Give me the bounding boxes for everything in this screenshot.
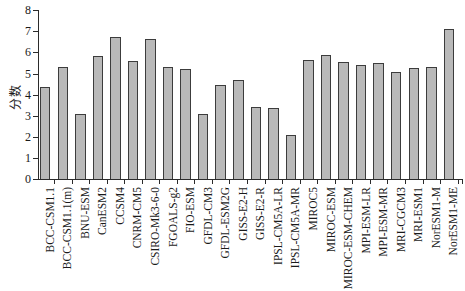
x-axis-tick — [177, 180, 178, 184]
y-axis-tick — [33, 158, 38, 159]
bar-IPSL-CM5A-MR — [286, 135, 297, 179]
x-category-label: GISS-E2-H — [238, 187, 249, 241]
x-category-label: IPSL-CM5A-MR — [290, 187, 301, 268]
x-category-label: CanESM2 — [97, 187, 108, 235]
y-axis-tick — [33, 179, 38, 180]
x-category-label: MIROC5 — [308, 187, 319, 230]
x-category-label: NorESM1-ME — [448, 187, 459, 255]
bar-BCC-CSM1.1(m) — [58, 67, 69, 179]
bar-MIROC5 — [303, 60, 314, 179]
x-axis-tick — [107, 180, 108, 184]
x-axis-tick — [89, 180, 90, 184]
bar-MRI-CGCM3 — [391, 72, 402, 179]
x-category-label: NorESM1-M — [431, 187, 442, 248]
y-axis-tick-label: 1 — [13, 153, 31, 163]
bar-CNRM-CM5 — [128, 61, 139, 179]
x-axis-end-tick — [462, 180, 463, 184]
x-category-label: MIROC-ESM-CHEM — [343, 187, 354, 289]
x-axis-tick — [265, 180, 266, 184]
bar-NorESM1-M — [426, 67, 437, 179]
x-category-label: MPI-ESM-MR — [378, 187, 389, 257]
bar-MIROC-ESM — [321, 55, 332, 179]
x-category-label: MRI-ESM1 — [413, 187, 424, 242]
x-axis-tick — [142, 180, 143, 184]
x-category-label: BCC-CSM1.1 — [45, 187, 56, 253]
x-category-label: MIROC-ESM — [326, 187, 337, 252]
y-axis-tick-label: 5 — [13, 69, 31, 79]
y-axis-tick-label: 7 — [13, 26, 31, 36]
y-axis-line — [38, 10, 39, 180]
x-axis-tick — [440, 180, 441, 184]
x-axis-tick — [124, 180, 125, 184]
x-axis-tick — [282, 180, 283, 184]
bar-FGOALS-g2 — [163, 67, 174, 179]
x-category-label: BNU-ESM — [80, 187, 91, 239]
bar-GFDL-CM3 — [198, 114, 209, 179]
x-axis-tick — [317, 180, 318, 184]
x-category-label: MRI-CGCM3 — [396, 187, 407, 252]
x-axis-tick — [405, 180, 406, 184]
y-axis-tick — [33, 31, 38, 32]
x-category-label: MPI-ESM-LR — [361, 187, 372, 253]
bar-CCSM4 — [110, 37, 121, 179]
y-axis-tick-label: 6 — [13, 47, 31, 57]
bar-GISS-E2-H — [233, 80, 244, 179]
bar-MIROC-ESM-CHEM — [338, 62, 349, 179]
x-category-label: FIO-ESM — [185, 187, 196, 233]
x-axis-tick — [423, 180, 424, 184]
bar-FIO-ESM — [180, 69, 191, 179]
bar-MPI-ESM-LR — [356, 65, 367, 179]
bar-MPI-ESM-MR — [373, 63, 384, 179]
y-axis-title: 分数 — [6, 84, 24, 110]
x-axis-tick — [194, 180, 195, 184]
x-axis-tick — [300, 180, 301, 184]
bar-CSIRO-Mk3-6-0 — [145, 39, 156, 179]
x-axis-tick — [352, 180, 353, 184]
bar-chart: 012345678BCC-CSM1.1BCC-CSM1.1(m)BNU-ESMC… — [0, 0, 465, 291]
bar-GFDL-ESM2G — [215, 85, 226, 179]
x-axis-tick — [212, 180, 213, 184]
x-category-label: CNRM-CM5 — [132, 187, 143, 248]
x-category-label: BCC-CSM1.1(m) — [62, 187, 73, 269]
x-category-label: IPSL-CM5A-LR — [273, 187, 284, 265]
bar-IPSL-CM5A-LR — [268, 108, 279, 179]
bar-MRI-ESM1 — [409, 68, 420, 179]
x-axis-tick — [247, 180, 248, 184]
bar-BNU-ESM — [75, 114, 86, 179]
bar-NorESM1-ME — [444, 29, 455, 179]
y-axis-tick — [33, 10, 38, 11]
x-category-label: GFDL-CM3 — [203, 187, 214, 245]
y-axis-tick-label: 3 — [13, 111, 31, 121]
x-category-label: GISS-E2-R — [255, 187, 266, 240]
y-axis-tick-label: 2 — [13, 132, 31, 142]
y-axis-tick-label: 8 — [13, 5, 31, 15]
y-axis-tick — [33, 95, 38, 96]
x-axis-tick — [159, 180, 160, 184]
y-axis-tick — [33, 52, 38, 53]
x-category-label: FGOALS-g2 — [168, 187, 179, 247]
y-axis-tick-label: 0 — [13, 174, 31, 184]
x-axis-tick — [370, 180, 371, 184]
y-axis-tick — [33, 137, 38, 138]
x-axis-tick — [72, 180, 73, 184]
x-axis-tick — [54, 180, 55, 184]
x-axis-line — [38, 179, 463, 180]
x-axis-tick — [229, 180, 230, 184]
bar-GISS-E2-R — [251, 107, 262, 179]
x-category-label: GFDL-ESM2G — [220, 187, 231, 259]
x-axis-tick — [335, 180, 336, 184]
x-axis-tick — [387, 180, 388, 184]
y-axis-tick — [33, 116, 38, 117]
y-axis-tick — [33, 74, 38, 75]
x-axis-tick — [458, 180, 459, 184]
x-category-label: CSIRO-Mk3-6-0 — [150, 187, 161, 266]
bar-BCC-CSM1.1 — [40, 87, 51, 179]
x-category-label: CCSM4 — [115, 187, 126, 225]
bar-CanESM2 — [93, 56, 104, 179]
